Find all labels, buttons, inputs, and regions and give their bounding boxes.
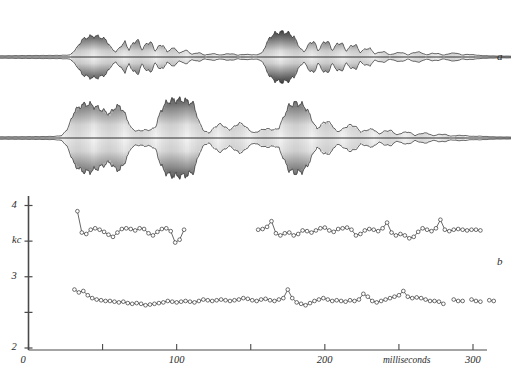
data-point-marker <box>407 236 411 240</box>
y-tick-label: 3 <box>12 270 17 281</box>
data-point-marker <box>259 298 263 302</box>
data-point-marker <box>397 293 401 297</box>
data-point-marker <box>116 231 120 235</box>
data-point-marker <box>166 299 170 303</box>
data-point-marker <box>77 291 81 295</box>
data-point-marker <box>419 296 423 300</box>
x-tick-label: 100 <box>169 354 185 365</box>
data-point-marker <box>160 227 164 231</box>
data-point-marker <box>326 298 330 302</box>
data-point-marker <box>237 298 241 302</box>
data-point-marker <box>184 299 188 303</box>
data-point-marker <box>233 298 237 302</box>
data-point-marker <box>148 303 152 307</box>
data-point-marker <box>317 298 321 302</box>
data-point-marker <box>357 298 361 302</box>
x-tick-label: 200 <box>317 354 333 365</box>
data-point-marker <box>308 301 312 305</box>
data-point-marker <box>86 293 90 297</box>
data-point-marker <box>81 289 85 293</box>
data-point-marker <box>102 230 106 234</box>
data-point-marker <box>270 219 274 223</box>
data-point-marker <box>261 227 265 231</box>
data-point-marker <box>367 227 371 231</box>
figure-canvas <box>0 0 512 378</box>
data-point-marker <box>388 296 392 300</box>
data-point-marker <box>228 299 232 303</box>
data-point-marker <box>394 234 398 238</box>
data-point-marker <box>98 228 102 232</box>
data-point-marker <box>366 295 370 299</box>
x-axis-title: milliseconds <box>383 355 431 365</box>
data-point-marker <box>282 296 286 300</box>
data-point-marker <box>406 295 410 299</box>
data-point-marker <box>314 229 318 233</box>
data-point-marker <box>381 226 385 230</box>
data-point-marker <box>330 299 334 303</box>
data-point-marker <box>492 299 496 303</box>
data-point-marker <box>319 226 323 230</box>
data-point-marker <box>153 302 157 306</box>
data-point-marker <box>310 231 314 235</box>
data-point-marker <box>84 232 88 236</box>
data-point-marker <box>188 300 192 304</box>
data-point-marker <box>268 298 272 302</box>
y-tick-label: 4 <box>12 199 17 210</box>
data-point-marker <box>384 298 388 302</box>
data-point-marker <box>428 299 432 303</box>
data-point-marker <box>487 298 491 302</box>
data-point-marker <box>415 296 419 300</box>
data-point-marker <box>345 226 349 230</box>
panel-label-b: b <box>497 255 503 267</box>
data-point-marker <box>403 234 407 238</box>
data-point-marker <box>430 229 434 233</box>
panel-label-a: a <box>497 50 503 62</box>
data-point-marker <box>479 300 483 304</box>
data-point-marker <box>90 296 94 300</box>
data-point-marker <box>279 234 283 238</box>
data-point-marker <box>178 238 182 242</box>
data-point-marker <box>277 298 281 302</box>
data-point-marker <box>359 232 363 236</box>
data-point-marker <box>474 228 478 232</box>
data-point-marker <box>206 298 210 302</box>
data-point-marker <box>443 228 447 232</box>
data-point-marker <box>402 289 406 293</box>
data-point-marker <box>304 303 308 307</box>
data-point-marker <box>111 235 115 239</box>
data-point-marker <box>410 296 414 300</box>
data-point-marker <box>169 229 173 233</box>
data-point-marker <box>179 300 183 304</box>
data-point-marker <box>372 228 376 232</box>
data-point-marker <box>135 301 139 305</box>
data-point-marker <box>182 228 186 232</box>
data-point-marker <box>219 298 223 302</box>
data-point-marker <box>161 301 165 305</box>
data-point-marker <box>399 232 403 236</box>
data-point-marker <box>416 230 420 234</box>
data-point-marker <box>99 298 103 302</box>
data-point-marker <box>129 227 133 231</box>
data-point-marker <box>73 288 77 292</box>
data-point-marker <box>130 302 134 306</box>
data-point-marker <box>354 234 358 238</box>
data-point-marker <box>393 295 397 299</box>
data-point-marker <box>332 230 336 234</box>
data-point-marker <box>439 218 443 222</box>
data-point-marker <box>193 301 197 305</box>
data-point-marker <box>107 233 111 237</box>
data-point-marker <box>465 229 469 233</box>
data-point-marker <box>197 299 201 303</box>
data-point-marker <box>265 225 269 229</box>
y-axis-title: kc <box>12 234 21 245</box>
data-point-marker <box>133 229 137 233</box>
data-point-marker <box>173 241 177 245</box>
data-point-marker <box>255 299 259 303</box>
data-point-marker <box>335 298 339 302</box>
data-point-marker <box>296 232 300 236</box>
data-point-marker <box>363 229 367 233</box>
data-point-marker <box>292 234 296 238</box>
data-point-marker <box>157 301 161 305</box>
data-point-marker <box>274 231 278 235</box>
data-point-marker <box>139 302 143 306</box>
